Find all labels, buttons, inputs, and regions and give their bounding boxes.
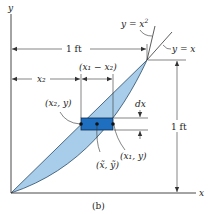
curve-label-x-squared: y = x2 (120, 17, 148, 29)
right-height-label: 1 ft (171, 122, 187, 132)
leader-x (163, 45, 171, 49)
exponent: 2 (143, 17, 148, 24)
curve-label-x: y = x (171, 44, 195, 54)
y-axis-label: y (7, 3, 14, 13)
top-width-label: 1 ft (66, 44, 82, 54)
point-left-label: (x₂, y) (45, 98, 72, 108)
x2-label: x₂ (37, 74, 46, 84)
leader-left (60, 112, 80, 124)
shaded-region (11, 60, 147, 193)
point-right-label: (x₁, y) (120, 151, 147, 161)
point-centroid-label: (x̃, ỹ) (96, 160, 119, 170)
x1-minus-x2-label: (x₁ − x₂) (79, 62, 117, 72)
figure-caption: (b) (92, 201, 105, 211)
dx-label: dx (135, 99, 146, 109)
leader-x-squared (140, 30, 152, 36)
curve-y-equals-x-squared (147, 26, 155, 60)
area-between-curves-diagram: y x 1 ft x₂ (x₁ − x₂) (x₂, y) (x̃, ỹ) (x… (0, 0, 210, 214)
x-axis-label: x (199, 188, 204, 198)
leader-right (114, 125, 125, 150)
